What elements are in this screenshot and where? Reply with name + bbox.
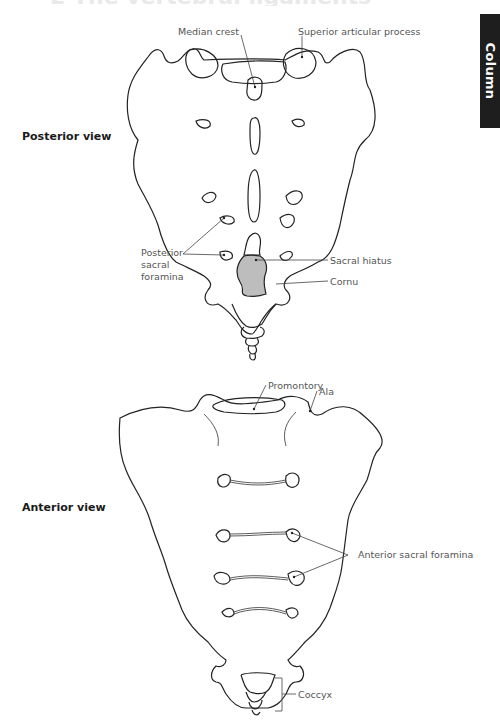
posterior-sacrum-figure <box>127 48 375 360</box>
callout-posterior-sacral-foramina-line1: Posterior <box>141 247 183 258</box>
callout-coccyx: Coccyx <box>298 689 332 700</box>
callout-posterior-sacral-foramina-line3: foramina <box>141 271 184 282</box>
callout-anterior-sacral-foramina: Anterior sacral foramina <box>358 549 473 560</box>
callout-median-crest: Median crest <box>178 26 239 37</box>
callout-posterior-sacral-foramina-line2: sacral <box>141 259 169 270</box>
posterior-leaders <box>183 35 328 284</box>
callout-sacral-hiatus: Sacral hiatus <box>330 255 392 266</box>
sacral-hiatus-shade <box>237 255 267 296</box>
callout-promontory: Promontory <box>268 380 323 391</box>
callout-ala: Ala <box>319 386 334 397</box>
callout-superior-articular-process: Superior articular process <box>298 26 420 37</box>
anterior-leaders <box>253 385 348 711</box>
sacrum-diagram <box>0 0 500 721</box>
anterior-sacrum-figure <box>119 395 382 715</box>
callout-cornu: Cornu <box>330 276 358 287</box>
